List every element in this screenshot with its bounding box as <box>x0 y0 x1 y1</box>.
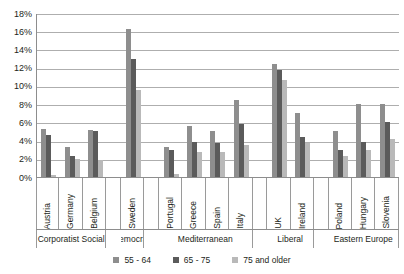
category-label-text: Hungary <box>359 195 368 229</box>
y-axis-tick-label: 14% <box>14 46 32 55</box>
label-rotate-wrap: Slovenia <box>375 178 397 229</box>
group-label-spacer <box>144 230 159 248</box>
bar-group-portugal <box>159 14 182 177</box>
group-label-spacer <box>106 230 121 248</box>
legend-swatch-icon <box>232 257 238 263</box>
category-label-text: Spain <box>213 205 222 229</box>
category-label-text: Germany <box>66 192 75 229</box>
category-label-portugal: Portugal <box>159 178 182 229</box>
group-label-spacer <box>314 230 329 248</box>
bar <box>343 156 348 177</box>
category-label-ireland: Ireland <box>291 178 314 229</box>
category-label-text: Sweden <box>128 196 137 229</box>
label-rotate-wrap: Poland <box>329 178 351 229</box>
group-spacer <box>107 14 121 177</box>
label-rotate-wrap: Portugal <box>159 178 181 229</box>
category-label-italy: Italy <box>229 178 252 229</box>
bar <box>305 143 310 177</box>
legend-label: 65 - 75 <box>184 255 210 265</box>
legend-swatch-icon <box>113 257 119 263</box>
y-axis: 18%16%14%12%10%8%6%4%2%0% <box>0 10 34 180</box>
legend: 55 - 6465 - 7575 and older <box>0 252 404 268</box>
legend-swatch-icon <box>173 257 179 263</box>
label-rotate-wrap: Belgium <box>83 178 105 229</box>
label-rotate-wrap: Germany <box>59 178 81 229</box>
bars-layer <box>37 14 399 177</box>
label-rotate-wrap: Greece <box>182 178 204 229</box>
y-axis-tick-label: 10% <box>14 82 32 91</box>
category-label-text: Austria <box>43 201 52 229</box>
bar-chart: 18%16%14%12%10%8%6%4%2%0% AustriaGermany… <box>0 0 404 274</box>
label-rotate-wrap: Ireland <box>291 178 313 229</box>
category-label-germany: Germany <box>59 178 82 229</box>
legend-item[interactable]: 65 - 75 <box>173 255 210 265</box>
bar <box>244 145 249 177</box>
group-spacer <box>145 14 159 177</box>
bar-group-poland <box>329 14 352 177</box>
category-label-belgium: Belgium <box>83 178 106 229</box>
bar-group-spain <box>206 14 229 177</box>
y-axis-tick-label: 8% <box>19 101 32 110</box>
bar <box>197 152 202 178</box>
label-rotate-wrap: Italy <box>229 178 251 229</box>
bar-group-uk <box>267 14 290 177</box>
category-label-slovenia: Slovenia <box>375 178 398 229</box>
category-label-spain: Spain <box>206 178 229 229</box>
group-label-band: Corporatist SocialdemocratMediterraneanL… <box>36 230 399 248</box>
y-axis-tick-label: 2% <box>19 155 32 164</box>
bar-group-hungary <box>352 14 375 177</box>
group-spacer <box>314 14 328 177</box>
y-axis-tick-label: 12% <box>14 64 32 73</box>
bar-group-greece <box>183 14 206 177</box>
bar <box>174 174 179 177</box>
category-label-hungary: Hungary <box>352 178 375 229</box>
category-label-text: Slovenia <box>382 194 391 229</box>
bar <box>282 80 287 177</box>
category-label-poland: Poland <box>329 178 352 229</box>
legend-item[interactable]: 55 - 64 <box>113 255 150 265</box>
plot-area <box>36 14 399 178</box>
y-axis-tick-label: 16% <box>14 28 32 37</box>
legend-label: 55 - 64 <box>124 255 150 265</box>
category-label-text: Belgium <box>90 196 99 229</box>
category-label-text: Poland <box>335 201 344 229</box>
group-label-spacer <box>253 230 268 248</box>
y-axis-tick-label: 4% <box>19 137 32 146</box>
legend-item[interactable]: 75 and older <box>232 255 290 265</box>
legend-label: 75 and older <box>243 255 290 265</box>
label-rotate-wrap: UK <box>267 178 289 229</box>
y-axis-tick-label: 6% <box>19 119 32 128</box>
group-label-liberal: Liberal <box>267 230 314 248</box>
group-label-corporatist-social: Corporatist Social <box>36 230 106 248</box>
category-label-text: UK <box>274 215 283 229</box>
bar-group-slovenia <box>375 14 398 177</box>
group-label-democrat: democrat <box>121 230 144 248</box>
label-rotate-wrap: Austria <box>37 178 58 229</box>
bar-group-austria <box>37 14 60 177</box>
label-rotate-wrap: Hungary <box>352 178 374 229</box>
category-label-text: Portugal <box>166 195 175 229</box>
category-label-sweden: Sweden <box>121 178 144 229</box>
category-label-text: Greece <box>189 199 198 229</box>
category-label-spacer <box>314 178 329 229</box>
category-label-spacer <box>106 178 121 229</box>
group-label-eastern-europe: Eastern Europe <box>329 230 399 248</box>
category-label-text: Ireland <box>298 201 307 229</box>
category-label-band: AustriaGermanyBelgiumSwedenPortugalGreec… <box>36 178 399 230</box>
bar <box>51 175 56 177</box>
category-label-spacer <box>253 178 268 229</box>
category-label-austria: Austria <box>36 178 59 229</box>
label-rotate-wrap: Sweden <box>121 178 143 229</box>
bar-group-germany <box>60 14 83 177</box>
bar-group-italy <box>230 14 253 177</box>
bar <box>366 150 371 177</box>
bar <box>46 135 51 177</box>
bar <box>75 159 80 177</box>
bar-group-ireland <box>291 14 314 177</box>
y-axis-tick-label: 18% <box>14 10 32 19</box>
bar <box>169 150 174 177</box>
bar <box>98 160 103 177</box>
category-label-spacer <box>144 178 159 229</box>
category-label-greece: Greece <box>182 178 205 229</box>
group-spacer <box>253 14 267 177</box>
